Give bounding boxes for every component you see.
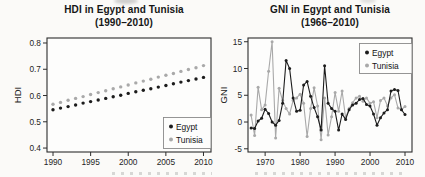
egypt-point <box>142 89 145 92</box>
egypt-point <box>344 118 347 121</box>
tunisia-point <box>379 99 382 102</box>
tunisia-legend-label: Tunisia <box>372 61 399 71</box>
tunisia-point <box>330 115 333 118</box>
egypt-point <box>383 111 386 114</box>
tunisia-point <box>104 89 107 92</box>
tunisia-point <box>89 93 92 96</box>
tunisia-point <box>334 91 337 94</box>
egypt-point <box>348 108 351 111</box>
egypt-point <box>386 108 389 111</box>
charts-canvas: 199019952000200520100.40.50.60.70.8Egypt… <box>0 0 425 177</box>
egypt-point <box>400 108 403 111</box>
tunisia-point <box>51 103 54 106</box>
tunisia-point <box>274 137 277 140</box>
egypt-point <box>320 129 323 132</box>
egypt-point <box>334 110 337 113</box>
hdi-x-tick-label: 2010 <box>194 157 213 167</box>
egypt-point <box>337 129 340 132</box>
egypt-legend-label: Egypt <box>372 48 394 58</box>
egypt-point <box>393 88 396 91</box>
tunisia-point <box>323 96 326 99</box>
egypt-point <box>316 115 319 118</box>
tunisia-point <box>157 75 160 78</box>
tunisia-point <box>267 70 270 73</box>
tunisia-point <box>313 86 316 89</box>
tunisia-point <box>74 97 77 100</box>
tunisia-point <box>358 95 361 98</box>
egypt-legend-marker <box>365 51 369 55</box>
egypt-point <box>306 80 309 83</box>
egypt-point <box>194 77 197 80</box>
gni-x-tick-label: 2010 <box>396 157 415 167</box>
gni-x-tick-label: 1980 <box>291 157 310 167</box>
egypt-point <box>330 107 333 110</box>
egypt-point <box>397 89 400 92</box>
figure-panel: HDI in Egypt and Tunisia (1990–2010) GNI… <box>0 0 425 177</box>
gni-y-tick-label: 10 <box>233 64 243 74</box>
egypt-point <box>323 64 326 67</box>
egypt-point <box>376 124 379 127</box>
hdi-x-tick-label: 1995 <box>81 157 100 167</box>
tunisia-point <box>164 74 167 77</box>
egypt-point <box>404 113 407 116</box>
hdi-y-tick-label: 0.6 <box>29 91 41 101</box>
tunisia-point <box>66 99 69 102</box>
egypt-point <box>164 84 167 87</box>
tunisia-point <box>376 116 379 119</box>
egypt-point <box>295 110 298 113</box>
tunisia-point <box>285 107 288 110</box>
egypt-point <box>264 108 267 111</box>
tunisia-point <box>119 85 122 88</box>
tunisia-point <box>253 134 256 137</box>
egypt-point <box>271 121 274 124</box>
tunisia-point <box>327 133 330 136</box>
egypt-point <box>74 103 77 106</box>
gni-x-tick-label: 1970 <box>256 157 275 167</box>
gni-legend: EgyptTunisia <box>360 44 413 74</box>
egypt-point <box>127 92 130 95</box>
egypt-point <box>172 82 175 85</box>
egypt-point <box>112 95 115 98</box>
tunisia-point <box>393 93 396 96</box>
gni-y-tick-label: 0 <box>237 117 242 127</box>
tunisia-point <box>257 86 260 89</box>
egypt-point <box>351 103 354 106</box>
egypt-legend-label: Egypt <box>176 122 198 132</box>
tunisia-point <box>341 90 344 93</box>
tunisia-point <box>97 91 100 94</box>
hdi-chart: 199019952000200520100.40.50.60.70.8Egypt… <box>29 38 213 167</box>
egypt-point <box>355 102 358 105</box>
egypt-point <box>379 116 382 119</box>
tunisia-point <box>372 100 375 103</box>
tunisia-point <box>337 110 340 113</box>
egypt-point <box>59 106 62 109</box>
tunisia-point <box>299 93 302 96</box>
tunisia-point <box>250 114 253 117</box>
egypt-point <box>299 109 302 112</box>
tunisia-point <box>288 113 291 116</box>
hdi-x-tick-label: 1990 <box>44 157 63 167</box>
egypt-point <box>365 103 368 106</box>
egypt-point <box>281 102 284 105</box>
egypt-legend-marker <box>169 125 173 129</box>
hdi-x-tick-label: 2000 <box>119 157 138 167</box>
egypt-point <box>288 67 291 70</box>
egypt-point <box>119 94 122 97</box>
egypt-point <box>369 105 372 108</box>
egypt-point <box>285 59 288 62</box>
hdi-x-tick-label: 2005 <box>157 157 176 167</box>
gni-y-tick-label: -5 <box>235 144 243 154</box>
tunisia-legend-marker <box>365 64 369 68</box>
egypt-point <box>253 127 256 130</box>
egypt-point <box>134 90 137 93</box>
hdi-y-tick-label: 0.7 <box>29 64 41 74</box>
tunisia-point <box>112 87 115 90</box>
gni-y-tick-label: 5 <box>237 90 242 100</box>
egypt-point <box>66 105 69 108</box>
tunisia-point <box>295 96 298 99</box>
egypt-point <box>341 113 344 116</box>
gni-x-tick-label: 1990 <box>326 157 345 167</box>
tunisia-point <box>59 101 62 104</box>
tunisia-point <box>397 107 400 110</box>
egypt-point <box>274 124 277 127</box>
